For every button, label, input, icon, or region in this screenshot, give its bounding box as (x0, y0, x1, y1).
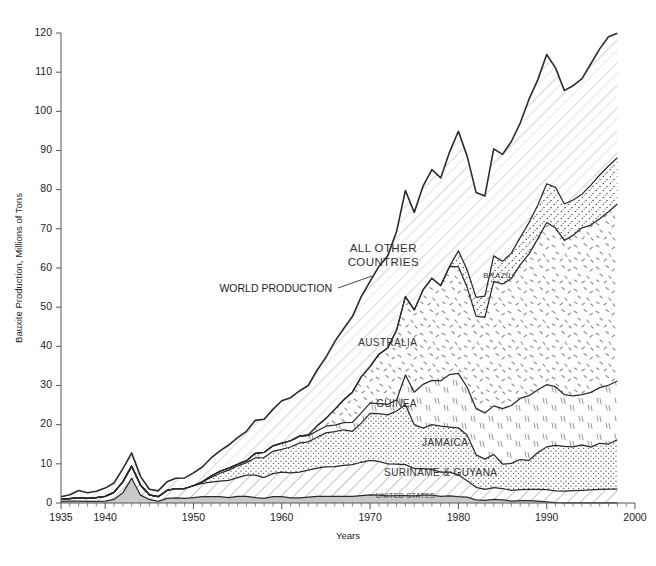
stacked-area-bands (61, 33, 617, 503)
y-tick-label: 120 (34, 26, 52, 38)
x-tick-label: 1980 (447, 511, 471, 523)
band-label-united-states: UNITED STATES (376, 492, 435, 499)
y-tick-label: 10 (40, 457, 52, 469)
band-label-australia: AUSTRALIA (358, 337, 417, 348)
x-tick-label: 1935 (49, 511, 73, 523)
band-label-jamaica: JAMAICA (422, 437, 468, 448)
y-tick-label: 30 (40, 378, 52, 390)
y-tick-label: 50 (40, 300, 52, 312)
x-tick-label: 1950 (182, 511, 206, 523)
y-tick-label: 40 (40, 339, 52, 351)
x-tick-label: 1990 (535, 511, 559, 523)
x-tick-label: 1940 (93, 511, 117, 523)
chart-canvas: 0102030405060708090100110120193519401950… (0, 0, 656, 566)
y-tick-label: 90 (40, 143, 52, 155)
bauxite-production-chart: 0102030405060708090100110120193519401950… (0, 0, 656, 566)
y-axis-title: Bauxite Production, Millions of Tons (13, 193, 24, 343)
band-label-guinea: GUINEA (376, 398, 417, 409)
band-label-brazil: BRAZIL (483, 271, 513, 280)
y-tick-label: 110 (35, 65, 52, 77)
x-axis-title: Years (336, 530, 360, 541)
y-tick-label: 0 (46, 496, 52, 508)
y-tick-label: 20 (40, 417, 52, 429)
world-production-callout: WORLD PRODUCTION (219, 276, 372, 294)
y-tick-label: 70 (40, 222, 52, 234)
x-tick-label: 1970 (358, 511, 382, 523)
y-tick-label: 100 (34, 104, 52, 116)
x-tick-label: 1960 (270, 511, 294, 523)
y-tick-label: 60 (40, 261, 52, 273)
x-tick-label: 2000 (623, 511, 647, 523)
band-label-suriname-guyana: SURINAME & GUYANA (384, 467, 497, 478)
y-tick-label: 80 (40, 182, 52, 194)
world-production-label: WORLD PRODUCTION (219, 282, 332, 294)
